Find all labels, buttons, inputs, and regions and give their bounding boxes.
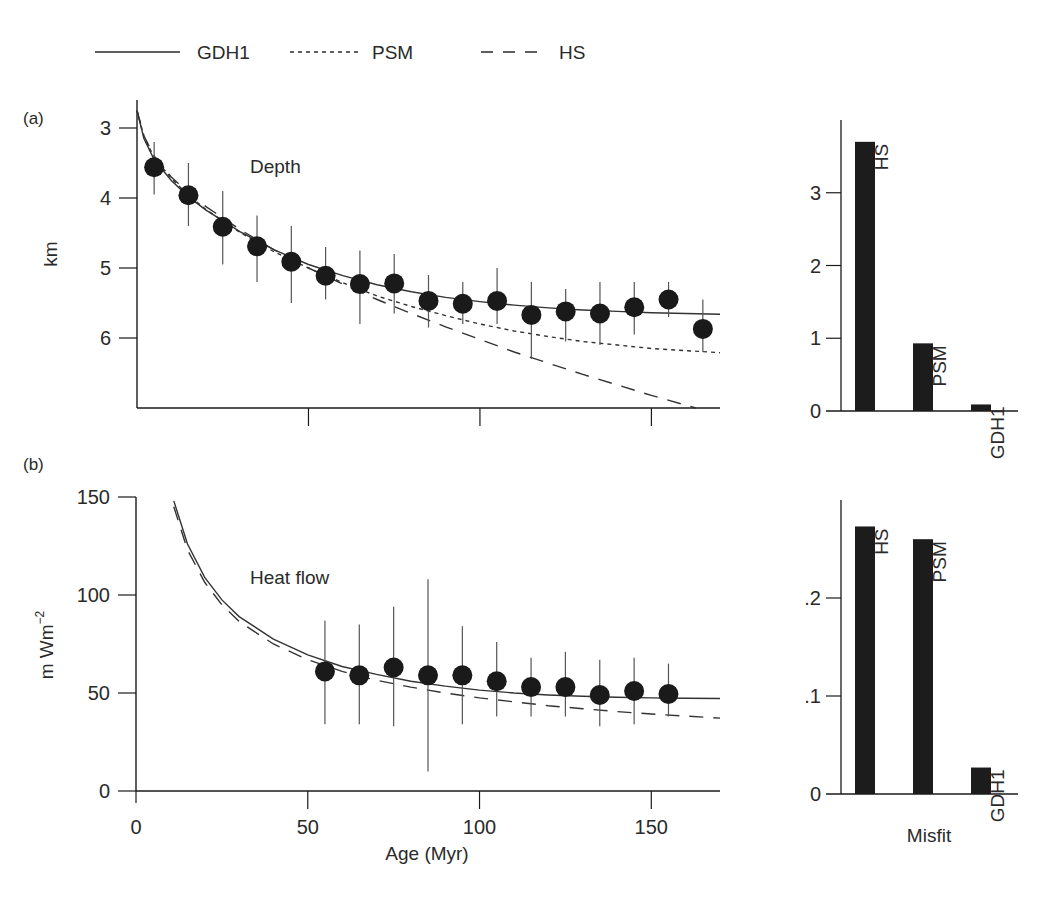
depth-data-points — [144, 142, 713, 359]
legend-psm-label: PSM — [372, 42, 413, 63]
data-point — [384, 273, 404, 293]
data-point — [555, 677, 575, 697]
panel-a-title: Depth — [250, 156, 301, 177]
data-point — [521, 305, 541, 325]
misfit-label: Misfit — [907, 825, 952, 846]
data-point — [418, 665, 438, 685]
bar-y-tick-label: .1 — [804, 685, 821, 707]
data-point — [281, 252, 301, 272]
heatflow-data-points — [315, 579, 679, 771]
data-point — [349, 665, 369, 685]
data-point — [350, 274, 370, 294]
bar-label-hs: HS — [871, 528, 892, 554]
bar-label-gdh1: GDH1 — [987, 770, 1008, 823]
bar-y-tick-label: 1 — [810, 327, 821, 349]
data-point — [487, 671, 507, 691]
panel-a-ylabel: km — [40, 241, 61, 266]
panel-b-heatflow: (b) Heat flow m Wm−2 050100150050100150 … — [23, 455, 720, 864]
data-point — [213, 217, 233, 237]
panel-a-depth: (a) Depth km 3456 — [23, 100, 720, 426]
data-point — [247, 236, 267, 256]
bar-y-tick-label: 0 — [810, 783, 821, 805]
data-point — [178, 185, 198, 205]
data-point — [452, 665, 472, 685]
data-point — [658, 684, 678, 704]
data-point — [624, 681, 644, 701]
data-point — [453, 294, 473, 314]
y-tick-label: 0 — [99, 780, 110, 802]
bar-label-hs: HS — [871, 144, 892, 170]
legend-gdh1-label: GDH1 — [197, 42, 250, 63]
panel-b-tag: (b) — [23, 455, 44, 474]
y-tick-label: 50 — [88, 682, 110, 704]
y-tick-label: 6 — [100, 327, 111, 349]
bar-label-gdh1: GDH1 — [987, 406, 1008, 459]
legend: GDH1 PSM HS — [95, 42, 585, 63]
panel-b-title: Heat flow — [250, 567, 329, 588]
depth-axes: 3456 — [100, 100, 720, 426]
bar-label-psm: PSM — [929, 541, 950, 582]
heatflow-misfit-bar-chart: 0.1.2HSPSMGDH1 — [804, 500, 1018, 822]
bar-y-tick-label: 3 — [810, 182, 821, 204]
data-point — [590, 685, 610, 705]
data-point — [315, 661, 335, 681]
bar-y-tick-label: 2 — [810, 255, 821, 277]
panel-b-ylabel: m Wm−2 — [33, 610, 57, 679]
curve-hs — [137, 111, 696, 409]
data-point — [419, 291, 439, 311]
data-point — [556, 301, 576, 321]
bar-hs — [855, 526, 875, 794]
x-axis-label: Age (Myr) — [385, 843, 468, 864]
data-point — [144, 157, 164, 177]
curve-gdh1 — [174, 501, 720, 699]
y-tick-label: 150 — [77, 486, 110, 508]
data-point — [316, 266, 336, 286]
y-tick-label: 4 — [100, 187, 111, 209]
y-tick-label: 100 — [77, 584, 110, 606]
x-tick-label: 100 — [463, 816, 496, 838]
legend-hs-label: HS — [559, 42, 585, 63]
data-point — [659, 290, 679, 310]
x-tick-label: 0 — [130, 816, 141, 838]
data-point — [487, 291, 507, 311]
x-tick-label: 50 — [297, 816, 319, 838]
bar-label-psm: PSM — [929, 345, 950, 386]
bar-hs — [855, 142, 875, 411]
panel-a-tag: (a) — [23, 109, 44, 128]
data-point — [693, 319, 713, 339]
depth-misfit-bar-chart: 0123HSPSMGDH1 — [810, 120, 1018, 459]
figure: GDH1 PSM HS (a) Depth km 3456 0123HSPSMG… — [0, 0, 1048, 900]
data-point — [590, 304, 610, 324]
bar-y-tick-label: 0 — [810, 400, 821, 422]
data-point — [521, 677, 541, 697]
bar-y-tick-label: .2 — [804, 587, 821, 609]
y-tick-label: 3 — [100, 117, 111, 139]
x-tick-label: 150 — [635, 816, 668, 838]
depth-model-curves — [137, 111, 720, 409]
data-point — [384, 658, 404, 678]
y-tick-label: 5 — [100, 257, 111, 279]
data-point — [624, 297, 644, 317]
